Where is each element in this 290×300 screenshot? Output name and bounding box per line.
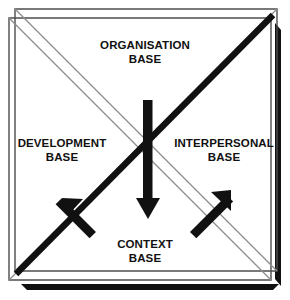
quadrant-label-organisation: ORGANISATION BASE [0, 38, 290, 66]
up-right-arrow [190, 190, 233, 238]
quadrant-label-interpersonal-line2: BASE [163, 150, 285, 164]
quadrant-label-development-line1: DEVELOPMENT [6, 136, 118, 150]
quadrant-label-interpersonal: INTERPERSONAL BASE [163, 136, 285, 164]
quadrant-label-development-line2: BASE [6, 150, 118, 164]
center-down-arrow [136, 100, 160, 219]
quadrant-label-interpersonal-line1: INTERPERSONAL [163, 136, 285, 150]
bottom-shadow-bar [21, 284, 279, 290]
diagram-canvas: ORGANISATION BASE DEVELOPMENT BASE INTER… [0, 0, 290, 300]
quadrant-label-context: CONTEXT BASE [0, 237, 290, 265]
quadrant-label-organisation-line2: BASE [0, 52, 290, 66]
quadrant-label-context-line2: BASE [0, 251, 290, 265]
quadrant-label-development: DEVELOPMENT BASE [6, 136, 118, 164]
quadrant-label-context-line1: CONTEXT [0, 237, 290, 251]
quadrant-label-organisation-line1: ORGANISATION [0, 38, 290, 52]
